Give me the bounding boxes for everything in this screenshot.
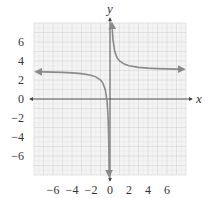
x-tick-label: −6: [47, 183, 60, 197]
x-tick-label: 0: [107, 183, 113, 197]
x-tick-label: −4: [66, 183, 79, 197]
y-tick-label: 0: [18, 92, 24, 106]
x-tick-label: −2: [85, 183, 98, 197]
x-tick-labels: −6−4−20246: [47, 183, 170, 197]
y-tick-labels: 6420−2−4−6: [11, 35, 24, 163]
x-axis-label: x: [195, 91, 202, 106]
x-tick-label: 4: [145, 183, 151, 197]
y-axis-label: y: [105, 1, 113, 16]
function-graph: x y −6−4−20246 6420−2−4−6: [0, 0, 205, 198]
y-tick-label: −6: [11, 149, 24, 163]
y-tick-label: 6: [18, 35, 24, 49]
x-tick-label: 6: [164, 183, 170, 197]
y-tick-label: 4: [18, 54, 24, 68]
x-tick-label: 2: [126, 183, 132, 197]
y-tick-label: −4: [11, 130, 24, 144]
y-tick-label: 2: [18, 73, 24, 87]
y-tick-label: −2: [11, 111, 24, 125]
